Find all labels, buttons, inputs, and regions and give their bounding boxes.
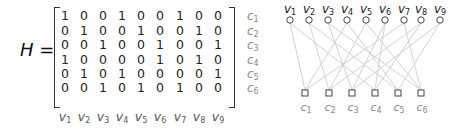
- graph-edge: [352, 23, 440, 90]
- check-node-label: c5: [390, 102, 408, 117]
- check-node-square-icon: [326, 90, 332, 96]
- variable-node-label: v3: [319, 3, 337, 19]
- variable-node-label: v7: [395, 3, 413, 19]
- variable-node-label: v4: [338, 3, 356, 19]
- variable-node-label: v8: [412, 3, 430, 19]
- check-node-square-icon: [395, 90, 401, 96]
- check-node-square-icon: [302, 90, 308, 96]
- graph-edge: [328, 23, 352, 90]
- variable-node-label: v5: [357, 3, 375, 19]
- check-node-square-icon: [418, 90, 424, 96]
- check-node-label: c1: [297, 102, 315, 117]
- variable-node-label: v9: [431, 3, 449, 19]
- graph-edge: [309, 23, 398, 90]
- check-node-square-icon: [372, 90, 378, 96]
- check-node-label: c4: [367, 102, 385, 117]
- check-node-label: c6: [413, 102, 431, 117]
- check-node-label: c2: [321, 102, 339, 117]
- graph-edge: [375, 23, 421, 90]
- graph-edge: [329, 23, 366, 90]
- variable-node-label: v2: [300, 3, 318, 19]
- variable-node-label: v1: [281, 3, 299, 19]
- variable-node-label: v6: [376, 3, 394, 19]
- graph-edge: [398, 23, 440, 90]
- check-node-square-icon: [349, 90, 355, 96]
- check-node-label: c3: [344, 102, 362, 117]
